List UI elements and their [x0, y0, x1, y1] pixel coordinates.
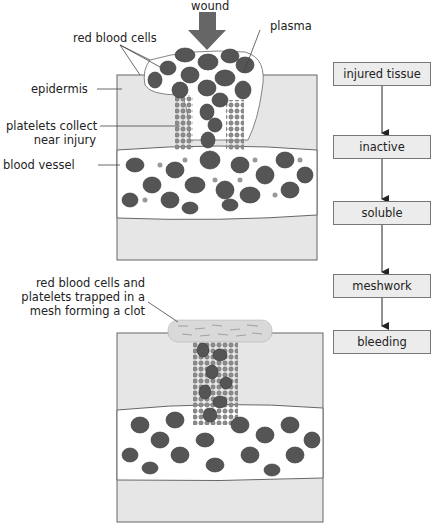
clot-mesh: [168, 320, 272, 342]
label-plasma: plasma: [270, 19, 312, 33]
label-platelets-line1: platelets collect: [6, 119, 96, 133]
label-clot-line3: mesh forming a clot: [0, 304, 145, 318]
top-skin-panel: [97, 12, 317, 260]
flow-step-soluble: soluble: [333, 201, 431, 225]
clot-leader-line: [148, 302, 178, 322]
flow-step-injured-tissue: injured tissue: [333, 62, 431, 86]
label-clot-line2: platelets trapped in a: [0, 290, 145, 304]
flow-step-inactive: inactive: [333, 135, 431, 159]
wound-arrow-icon: [188, 12, 226, 50]
label-blood-vessel: blood vessel: [3, 158, 75, 172]
label-epidermis: epidermis: [31, 82, 88, 96]
platelets-right: [226, 100, 244, 150]
flow-step-meshwork: meshwork: [333, 274, 431, 298]
flow-step-bleeding: bleeding: [333, 330, 431, 354]
platelets-left: [175, 95, 193, 150]
bottom-skin-panel: [117, 302, 323, 522]
label-red-blood-cells: red blood cells: [73, 31, 157, 45]
label-wound: wound: [191, 0, 229, 13]
label-platelets-line2: near injury: [6, 133, 96, 147]
label-clot-line1: red blood cells and: [0, 276, 145, 290]
